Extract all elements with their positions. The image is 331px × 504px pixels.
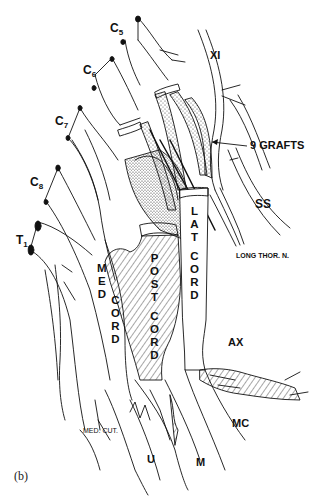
label-med-cord-med: MED bbox=[97, 262, 107, 301]
label-mc: MC bbox=[232, 418, 249, 429]
label-ax: AX bbox=[228, 337, 243, 348]
label-m: M bbox=[196, 457, 205, 468]
label-post-cord: POSTCORD bbox=[150, 252, 159, 362]
label-u: U bbox=[147, 454, 155, 465]
root-label-c5: C5 bbox=[110, 22, 123, 37]
label-med-cord-cord: CORD bbox=[111, 294, 120, 346]
label-9-grafts: 9 GRAFTS bbox=[250, 140, 304, 151]
root-label-c8: C8 bbox=[30, 176, 43, 191]
label-xi: XI bbox=[210, 50, 220, 61]
label-med-cut: MED. CUT. bbox=[83, 427, 118, 434]
label-ss: SS bbox=[255, 198, 271, 210]
root-label-c7: C7 bbox=[55, 115, 68, 130]
root-label-t1: T1 bbox=[16, 234, 28, 249]
root-label-c6: C6 bbox=[83, 64, 96, 79]
label-long-thoracic-nerve: LONG THOR. N. bbox=[236, 252, 289, 259]
label-lat-cord: LATCORD bbox=[190, 205, 199, 302]
figure-caption: (b) bbox=[14, 469, 28, 484]
